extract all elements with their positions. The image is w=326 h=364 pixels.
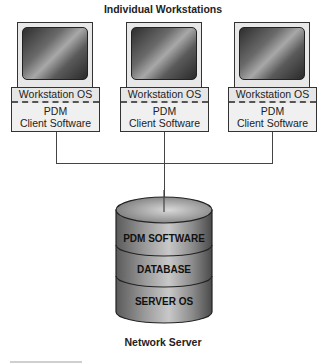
server-title: Network Server <box>0 336 326 348</box>
server-cylinder-icon <box>0 0 326 364</box>
divider <box>10 361 82 363</box>
server-layer-pdm-software: PDM SOFTWARE <box>116 233 212 244</box>
server-layer-server-os: SERVER OS <box>116 296 212 307</box>
server-layer-database: DATABASE <box>116 264 212 275</box>
